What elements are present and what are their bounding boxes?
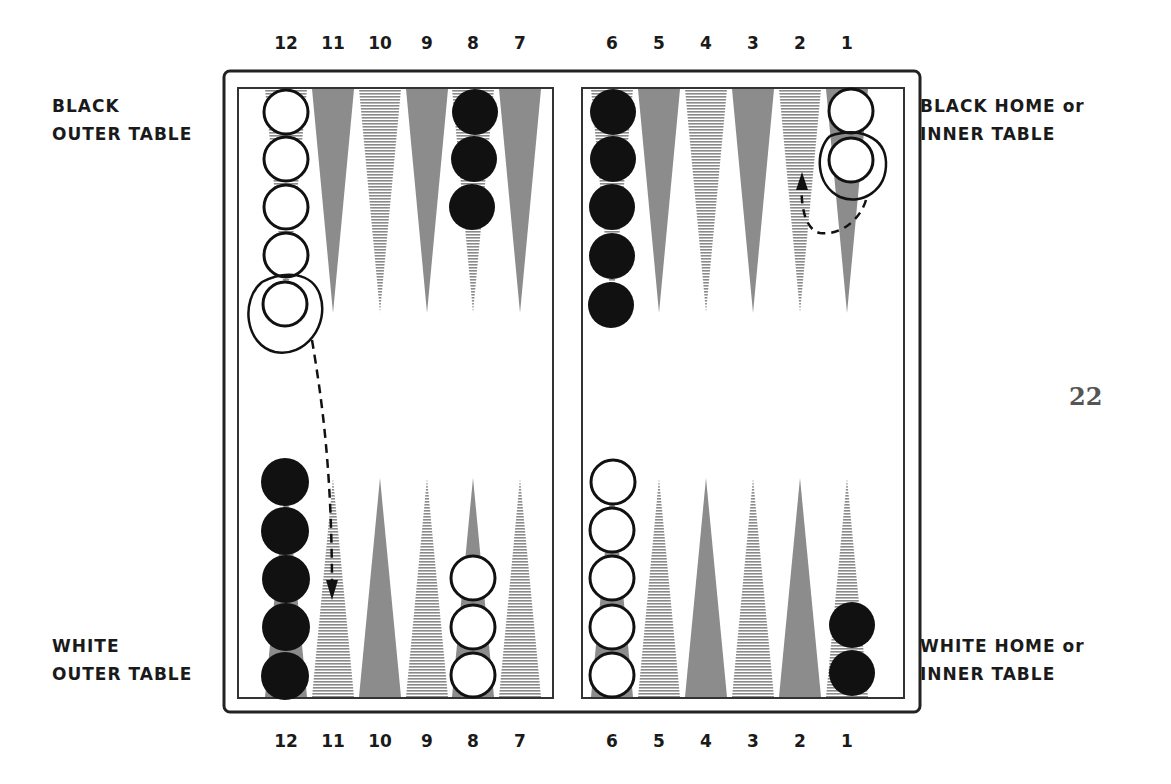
black-checkers-point-8-top	[449, 89, 498, 230]
black-checker[interactable]	[829, 650, 875, 696]
white-checkers-point-12-top	[263, 90, 308, 326]
black-checker[interactable]	[262, 603, 310, 651]
black-checker[interactable]	[829, 602, 875, 648]
white-checker[interactable]	[264, 185, 308, 229]
white-checker[interactable]	[590, 605, 634, 649]
white-checker[interactable]	[829, 89, 873, 133]
black-checker[interactable]	[262, 555, 310, 603]
black-checker[interactable]	[588, 282, 634, 328]
black-checker[interactable]	[451, 136, 497, 182]
black-checker[interactable]	[449, 184, 495, 230]
backgammon-board	[0, 0, 1171, 784]
white-checker[interactable]	[451, 605, 495, 649]
white-checker[interactable]	[590, 653, 634, 697]
white-checker[interactable]	[590, 508, 634, 552]
black-checker[interactable]	[261, 652, 309, 700]
black-checker[interactable]	[261, 458, 309, 506]
white-checker[interactable]	[264, 90, 308, 134]
white-checker[interactable]	[451, 556, 495, 600]
black-checkers-point-6-top	[588, 89, 636, 328]
white-checker[interactable]	[829, 138, 873, 182]
white-checker[interactable]	[264, 137, 308, 181]
white-checker[interactable]	[451, 653, 495, 697]
white-checker[interactable]	[591, 460, 635, 504]
white-checker[interactable]	[263, 282, 307, 326]
black-checker[interactable]	[590, 89, 636, 135]
white-checker[interactable]	[590, 556, 634, 600]
black-checker[interactable]	[590, 136, 636, 182]
white-checkers-point-8-bottom	[451, 556, 495, 697]
black-checker[interactable]	[589, 184, 635, 230]
black-checker[interactable]	[261, 507, 309, 555]
white-checkers-point-6-bottom	[590, 460, 635, 697]
black-checkers-point-12-bottom	[261, 458, 310, 700]
white-checker[interactable]	[264, 233, 308, 277]
black-checker[interactable]	[589, 233, 635, 279]
black-checker[interactable]	[452, 89, 498, 135]
